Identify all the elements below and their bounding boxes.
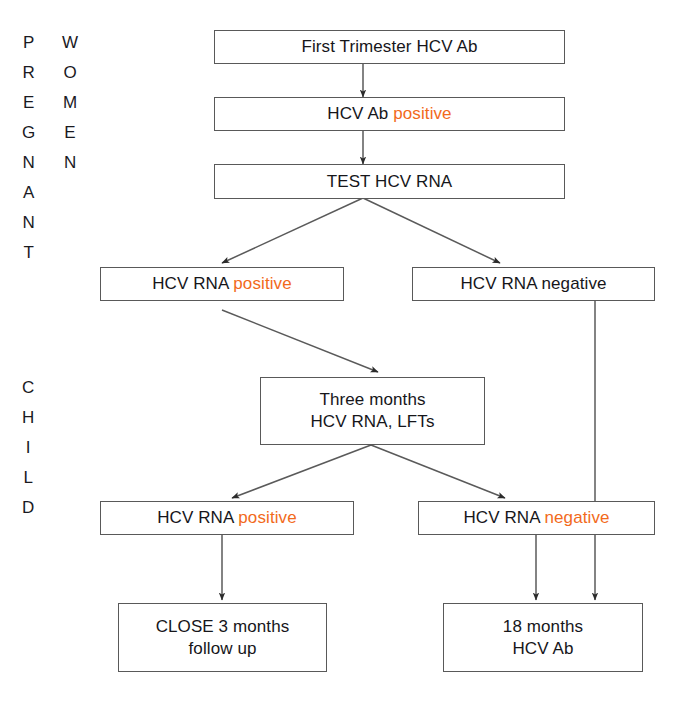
node-test-hcv-rna[interactable]: TEST HCV RNA xyxy=(214,164,565,199)
edge-threemonths-to-rnanegative-child xyxy=(371,445,505,498)
node-text: HCV Ab xyxy=(327,104,393,123)
node-rna-negative-mother[interactable]: HCV RNA negative xyxy=(412,267,655,301)
letter: E xyxy=(64,118,76,148)
node-text: 18 months xyxy=(503,617,583,636)
node-text: HCV RNA negative xyxy=(460,274,606,293)
node-text: HCV RNA xyxy=(463,508,544,527)
node-line: HCV Ab positive xyxy=(327,103,451,125)
letter: N xyxy=(22,208,35,238)
node-line: HCV RNA positive xyxy=(152,273,292,295)
node-line: First Trimester HCV Ab xyxy=(301,36,477,58)
node-text-highlight: positive xyxy=(393,104,451,123)
letter: H xyxy=(22,403,35,433)
node-close-followup[interactable]: CLOSE 3 months follow up xyxy=(118,603,327,672)
node-text-highlight: positive xyxy=(238,508,296,527)
node-line: HCV Ab xyxy=(512,638,573,660)
flowchart-canvas: P R E G N A N T W O M E N C H I L D Firs… xyxy=(0,0,676,701)
letter: W xyxy=(62,28,79,58)
node-line: Three months xyxy=(319,389,425,411)
edge-rnapositive-to-threemonths xyxy=(222,310,378,372)
node-eighteen-months[interactable]: 18 months HCV Ab xyxy=(443,603,643,672)
letter: G xyxy=(22,118,36,148)
node-text: CLOSE 3 months xyxy=(156,617,290,636)
node-rna-negative-child[interactable]: HCV RNA negative xyxy=(418,501,655,535)
node-text: HCV RNA, LFTs xyxy=(310,412,434,431)
node-line: HCV RNA negative xyxy=(463,507,609,529)
node-text: follow up xyxy=(189,639,257,658)
letter: D xyxy=(22,493,35,523)
node-text-highlight: positive xyxy=(233,274,291,293)
letter: O xyxy=(63,58,77,88)
letter: C xyxy=(22,373,35,403)
letter: T xyxy=(23,238,34,268)
side-label-child: C H I L D xyxy=(22,373,35,523)
letter: A xyxy=(23,178,35,208)
node-text: HCV Ab xyxy=(512,639,573,658)
node-three-months[interactable]: Three months HCV RNA, LFTs xyxy=(260,377,485,445)
node-hcv-ab-positive[interactable]: HCV Ab positive xyxy=(214,97,565,131)
letter: P xyxy=(23,28,35,58)
node-text: Three months xyxy=(319,390,425,409)
node-rna-positive-child[interactable]: HCV RNA positive xyxy=(100,501,354,535)
letter: L xyxy=(23,463,33,493)
node-line: HCV RNA negative xyxy=(460,273,606,295)
letter: M xyxy=(63,88,78,118)
side-label-pregnant: P R E G N A N T xyxy=(22,28,36,268)
node-line: TEST HCV RNA xyxy=(327,171,453,193)
letter: N xyxy=(22,148,35,178)
edge-testrna-to-rnanegative xyxy=(363,198,500,263)
node-line: HCV RNA positive xyxy=(157,507,297,529)
node-line: 18 months xyxy=(503,616,583,638)
letter: R xyxy=(22,58,35,88)
node-line: HCV RNA, LFTs xyxy=(310,411,434,433)
edge-testrna-to-rnapositive xyxy=(222,198,363,263)
node-text: TEST HCV RNA xyxy=(327,172,453,191)
letter: N xyxy=(64,148,77,178)
node-text: HCV RNA xyxy=(157,508,238,527)
node-first-trimester[interactable]: First Trimester HCV Ab xyxy=(214,30,565,64)
edge-threemonths-to-rnapositive-child xyxy=(232,445,371,498)
letter: I xyxy=(26,433,31,463)
node-text: First Trimester HCV Ab xyxy=(301,37,477,56)
node-line: follow up xyxy=(189,638,257,660)
node-text-highlight: negative xyxy=(545,508,610,527)
node-line: CLOSE 3 months xyxy=(156,616,290,638)
node-text: HCV RNA xyxy=(152,274,233,293)
node-rna-positive-mother[interactable]: HCV RNA positive xyxy=(100,267,344,301)
side-label-women: W O M E N xyxy=(62,28,79,178)
letter: E xyxy=(23,88,35,118)
